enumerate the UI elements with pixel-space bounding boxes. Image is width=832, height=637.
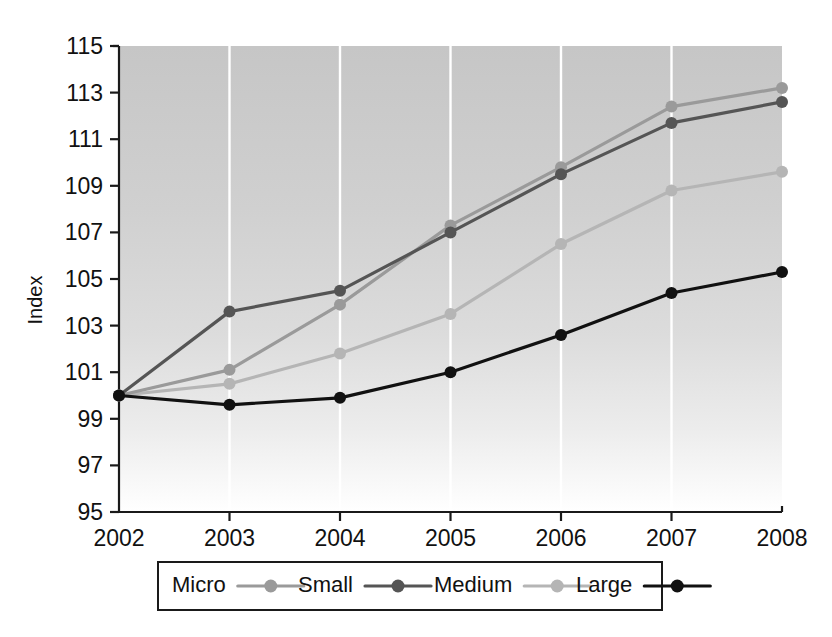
data-point [334, 299, 346, 311]
y-tick-label: 95 [77, 499, 103, 525]
data-point [224, 306, 236, 318]
legend-marker [551, 580, 564, 593]
y-tick-label: 109 [65, 173, 103, 199]
x-tick-label: 2006 [535, 525, 586, 551]
data-point [334, 392, 346, 404]
data-point [666, 117, 678, 129]
x-tick-label: 2005 [425, 525, 476, 551]
data-point [224, 399, 236, 411]
data-point [776, 96, 788, 108]
data-point [334, 285, 346, 297]
data-point [666, 287, 678, 299]
y-tick-label: 111 [68, 126, 103, 152]
data-point [776, 82, 788, 94]
data-point [224, 378, 236, 390]
y-axis-ticks: 959799101103105107109111113115 [65, 33, 119, 525]
y-axis-title: Index [24, 276, 46, 325]
x-tick-label: 2002 [93, 525, 144, 551]
chart-legend: MicroSmallMediumLarge [158, 562, 710, 610]
data-point [666, 101, 678, 113]
data-point [445, 226, 457, 238]
y-tick-label: 103 [65, 313, 103, 339]
y-tick-label: 107 [65, 219, 103, 245]
legend-label: Small [298, 572, 353, 597]
data-point [555, 329, 567, 341]
data-point [555, 238, 567, 250]
data-point [666, 184, 678, 196]
y-tick-label: 113 [66, 80, 103, 106]
y-tick-label: 105 [65, 266, 103, 292]
y-tick-label: 101 [65, 359, 103, 385]
y-tick-label: 115 [66, 33, 103, 59]
data-point [334, 348, 346, 360]
data-point [445, 308, 457, 320]
legend-marker [392, 580, 405, 593]
line-chart: 959799101103105107109111113115 200220032… [0, 0, 832, 637]
legend-label: Large [576, 572, 632, 597]
legend-marker [671, 580, 684, 593]
x-axis-ticks: 2002200320042005200620072008 [93, 512, 807, 551]
data-point [224, 364, 236, 376]
x-tick-label: 2008 [756, 525, 807, 551]
data-point [776, 266, 788, 278]
x-tick-label: 2007 [646, 525, 697, 551]
x-tick-label: 2004 [314, 525, 365, 551]
chart-container: 959799101103105107109111113115 200220032… [0, 0, 832, 637]
x-tick-label: 2003 [204, 525, 255, 551]
data-point [555, 168, 567, 180]
data-point [113, 390, 125, 402]
legend-label: Micro [172, 572, 226, 597]
y-tick-label: 97 [77, 452, 103, 478]
y-tick-label: 99 [77, 406, 103, 432]
data-point [776, 166, 788, 178]
legend-label: Medium [434, 572, 512, 597]
legend-marker [264, 580, 277, 593]
data-point [445, 366, 457, 378]
